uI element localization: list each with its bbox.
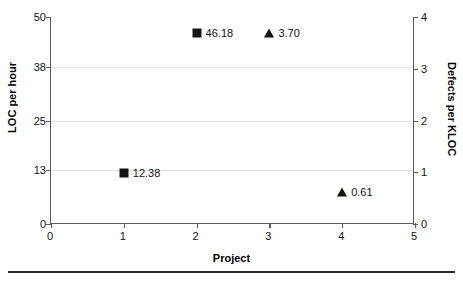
bottom-divider-rule [8,271,455,273]
data-point-label: 0.61 [351,187,372,198]
axis-tick [51,223,52,228]
axis-tick [413,121,418,122]
triangle-marker [337,188,347,197]
axis-tick [46,170,51,171]
data-point-label: 12.38 [133,167,161,178]
chart-figure: 12.3846.183.700.61 013253850 01234 01234… [0,0,463,287]
triangle-marker [264,28,274,37]
square-marker [119,168,128,177]
axis-tick [413,172,418,173]
left-tick-label: 50 [6,12,46,23]
axis-tick [269,223,270,228]
plot-area: 12.3846.183.700.61 [50,17,414,224]
axis-tick [342,223,343,228]
x-tick-label: 5 [399,231,429,242]
x-tick-label: 1 [108,231,138,242]
right-tick-label: 4 [421,12,451,23]
x-tick-label: 3 [253,231,283,242]
gridline [51,121,413,122]
left-tick-label: 0 [6,219,46,230]
x-axis-title: Project [0,252,463,264]
right-tick-label: 1 [421,167,451,178]
axis-tick [415,223,416,228]
axis-tick [46,121,51,122]
square-marker [192,28,201,37]
axis-tick [46,67,51,68]
left-axis-title: LOC per hour [6,62,24,133]
data-point-label: 3.70 [278,27,299,38]
right-tick-label: 0 [421,219,451,230]
x-tick-label: 4 [326,231,356,242]
x-tick-label: 2 [181,231,211,242]
gridline [51,67,413,68]
left-tick-label: 13 [6,165,46,176]
axis-tick [413,69,418,70]
axis-tick [197,223,198,228]
gridline [51,170,413,171]
axis-tick [124,223,125,228]
right-axis-title: Defects per KLOC [440,62,458,156]
axis-tick [413,17,418,18]
data-point-label: 46.18 [206,27,234,38]
axis-tick [46,17,51,18]
x-tick-label: 0 [35,231,65,242]
